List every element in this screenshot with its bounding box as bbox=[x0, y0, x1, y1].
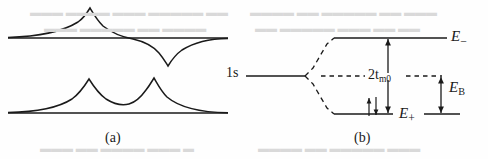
binding-energy-arrow bbox=[438, 77, 444, 113]
bonding-wavefunction-curve bbox=[8, 78, 228, 113]
binding-energy-symbol: E bbox=[449, 79, 458, 95]
panel-a-lower-group bbox=[8, 78, 228, 113]
antibonding-wavefunction-curve bbox=[8, 8, 228, 66]
splitting-energy-subscript: m0 bbox=[379, 74, 391, 84]
caption-panel-a: (a) bbox=[105, 131, 121, 145]
binding-energy-label: EB bbox=[449, 80, 465, 97]
splitting-energy-label: 2tm0 bbox=[368, 68, 391, 84]
lower-energy-level-sign: + bbox=[408, 112, 415, 125]
lower-energy-level-symbol: E bbox=[399, 105, 408, 121]
upper-energy-level-sign: − bbox=[460, 35, 467, 48]
upper-energy-level-label: E− bbox=[451, 29, 467, 47]
panel-a-group bbox=[8, 8, 228, 66]
splitting-measure-arrow-lower bbox=[385, 80, 391, 113]
binding-energy-subscript: B bbox=[458, 86, 465, 97]
panel-b-group bbox=[246, 38, 460, 116]
splitting-connector-upper bbox=[305, 38, 334, 76]
splitting-connector-lower bbox=[305, 76, 334, 114]
figure-drawing bbox=[0, 0, 488, 159]
atomic-level-1s-label: 1s bbox=[226, 66, 238, 80]
lower-energy-level-label: E+ bbox=[399, 106, 415, 124]
figure-container: ▬▬▬ ▬▬▬▬ ▬▬▬ ▬▬▬▬▬ ▬▬ ▬▬▬▬ ▬▬ ▬▬▬▬▬ ▬▬ ▬… bbox=[0, 0, 488, 159]
caption-panel-b: (b) bbox=[354, 131, 370, 145]
upper-energy-level-symbol: E bbox=[451, 28, 460, 44]
splitting-energy-symbol: 2t bbox=[368, 67, 379, 82]
small-shift-arrow-down bbox=[374, 97, 379, 115]
